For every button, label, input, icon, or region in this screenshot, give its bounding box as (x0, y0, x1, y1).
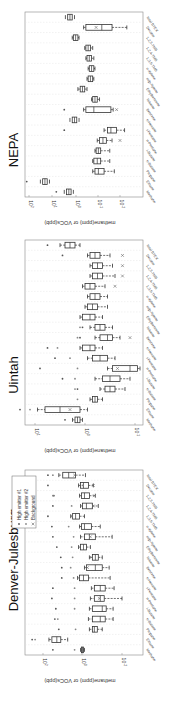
category-label: Methane (145, 190, 156, 204)
high-emitter-2-marker (52, 474, 54, 476)
high-emitter-1-marker (55, 191, 57, 193)
high-emitter-1-marker (55, 608, 57, 610)
high-emitter-1-marker (62, 378, 64, 380)
high-emitter-1-marker (47, 474, 49, 476)
high-emitter-1-marker (47, 244, 49, 246)
iqr-box (83, 314, 96, 320)
axis-tick-label: 101 (51, 200, 57, 208)
iqr-box (94, 585, 105, 591)
high-emitter-1-marker (61, 567, 63, 569)
legend-label: High emitter #2 (24, 488, 29, 520)
high-emitter-2-marker (75, 628, 77, 630)
high-emitter-1-marker (64, 419, 66, 421)
high-emitter-2-marker (74, 598, 76, 600)
high-emitter-2-marker (77, 368, 79, 370)
high-emitter-1-marker (61, 577, 63, 579)
high-emitter-1-marker (82, 326, 84, 328)
legend-item: High emitter #2 (24, 488, 29, 524)
high-emitter-2-marker (74, 608, 76, 610)
iqr-box (107, 127, 116, 133)
axis-tick-label: 10-2 (119, 200, 125, 209)
high-emitter-2-marker (73, 536, 75, 538)
high-emitter-1-marker (62, 255, 64, 257)
iqr-box (92, 616, 105, 622)
iqr-box (92, 626, 97, 632)
high-emitter-2-marker (29, 409, 31, 411)
iqr-box (52, 637, 61, 643)
box-o-xylene (88, 66, 95, 72)
iqr-box (82, 524, 92, 530)
legend-label: High emitter #1 (17, 488, 22, 520)
legend-item: Background (31, 495, 36, 525)
high-emitter-1-marker (51, 526, 53, 528)
high-emitter-1-marker (54, 618, 56, 620)
high-emitter-1-marker (56, 546, 58, 548)
value-axis-label: methane(ppm) or VOCs(ppb) (44, 678, 115, 684)
legend: High emitter #1High emitter #2Background (12, 476, 36, 528)
high-emitter-2-marker (77, 398, 79, 400)
iqr-box (103, 376, 121, 382)
iqr-box (45, 407, 80, 413)
high-emitter-1-marker (39, 368, 41, 370)
legend-item: High emitter #1 (17, 488, 22, 524)
high-emitter-1-marker (60, 556, 62, 558)
box-m-p-xylene (87, 76, 94, 82)
iqr-box (63, 472, 76, 478)
high-emitter-1-marker (77, 388, 79, 390)
iqr-box (86, 107, 111, 113)
high-emitter-1-marker (54, 357, 56, 359)
panel-title: Uintah (6, 356, 21, 394)
high-emitter-2-icon (25, 523, 27, 525)
high-emitter-2-marker (74, 388, 76, 390)
high-emitter-1-marker (51, 598, 53, 600)
category-label: Methane (145, 648, 156, 662)
high-emitter-2-marker (74, 587, 76, 589)
iqr-box (84, 534, 95, 540)
legend-label: Background (31, 495, 36, 520)
value-axis-label: methane(ppm) or VOCs(ppb) (44, 220, 115, 226)
axis-tick-label: 101 (34, 428, 40, 436)
high-emitter-1-marker (31, 639, 33, 641)
high-emitter-1-marker (63, 129, 65, 131)
iqr-box (86, 565, 102, 571)
high-emitter-2-marker (69, 357, 71, 359)
high-emitter-2-marker (73, 577, 75, 579)
axis-tick-label: 10-1 (97, 200, 103, 209)
high-emitter-2-marker (34, 639, 36, 641)
high-emitter-1-marker (52, 536, 54, 538)
high-emitter-2-marker (79, 326, 81, 328)
axis-tick-label: 102 (42, 658, 48, 666)
rotated-box-plot-figure: MethaneEthanePropanen-Butanei-Butanen-Pe… (0, 0, 178, 701)
iqr-box (86, 25, 112, 31)
panel-uintah: MethaneEthanePropanen-Butanei-Butanen-Pe… (6, 240, 161, 454)
high-emitter-1-marker (79, 337, 81, 339)
high-emitter-1-marker (58, 628, 60, 630)
high-emitter-2-marker (71, 515, 73, 517)
high-emitter-2-marker (68, 526, 70, 528)
high-emitter-1-marker (26, 181, 28, 183)
axis-tick-label: 102 (28, 200, 34, 208)
axis-tick-label: 100 (84, 428, 90, 436)
panel-nepa: MethaneEthanePropanen-Butanei-Butanen-Pe… (6, 12, 161, 226)
axis-tick-label: 10-2 (121, 658, 127, 667)
iqr-box (73, 513, 80, 519)
iqr-box (83, 503, 93, 509)
high-emitter-1-marker (47, 515, 49, 517)
axis-tick-label: 100 (81, 658, 87, 666)
high-emitter-1-marker (47, 485, 49, 487)
iqr-box (83, 345, 96, 351)
iqr-box (100, 335, 113, 341)
box-1-2-3-tmb (72, 35, 79, 41)
high-emitter-1-marker (52, 505, 54, 507)
value-axis-label: methane(ppm) or VOCs(ppb) (44, 448, 115, 454)
high-emitter-1-marker (63, 109, 65, 111)
axis-tick-label: 10-1 (134, 428, 140, 437)
axis-tick-label: 100 (75, 200, 81, 208)
high-emitter-2-marker (82, 485, 84, 487)
high-emitter-2-marker (74, 378, 76, 380)
high-emitter-1-marker (52, 649, 54, 651)
high-emitter-1-marker (19, 409, 21, 411)
high-emitter-1-icon (18, 523, 20, 525)
high-emitter-2-marker (77, 337, 79, 339)
iqr-box (95, 168, 104, 174)
